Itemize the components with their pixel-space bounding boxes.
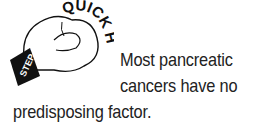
callout-text-line-3: predisposing factor. [13, 98, 151, 123]
callout-text-line-1: Most pancreatic [120, 46, 233, 73]
boxing-glove-icon: STEP-UP QUICK HIT [2, 0, 114, 92]
callout-text-line-2: cancers have no [120, 72, 237, 99]
